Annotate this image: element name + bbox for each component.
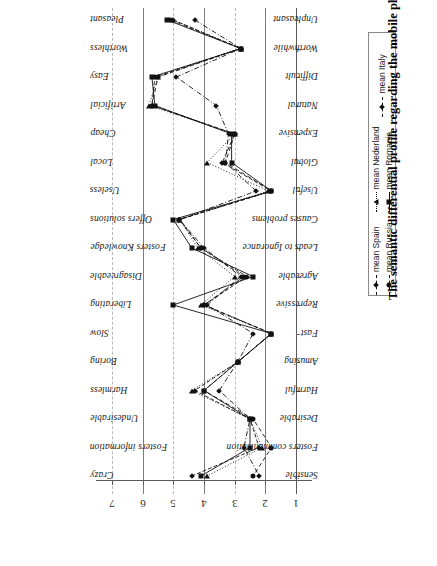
item-label-left-undesirable: Undesirable [90, 413, 138, 423]
legend-item-mean-spain[interactable]: mean Spain [370, 222, 382, 295]
item-label-right-global: Global [291, 157, 318, 167]
value-tick-label-2: 2 [258, 498, 272, 510]
item-label-right-leads-to-ignorance: Leads to Ignorance [242, 242, 318, 252]
value-tick-2 [265, 480, 266, 485]
item-label-right-harmful: Harmful [285, 385, 318, 395]
legend-label: mean Spain [371, 227, 381, 272]
item-label-left-disagreeable: Disagreeable [90, 271, 142, 281]
item-label-right-fast: Fast [301, 328, 318, 338]
item-label-left-boring: Boring [90, 356, 117, 366]
item-label-left-fosters-knowledge: Fosters Knowledge [90, 242, 165, 252]
legend-marker-triangle-icon [371, 192, 381, 212]
item-label-right-causes-problems: Causes problems [252, 214, 318, 224]
value-tick-label-1: 1 [289, 498, 303, 510]
chart-root: 7654321 PleasantWorthlessEasyArtificialC… [0, 0, 437, 566]
item-label-left-local: Local [90, 157, 112, 167]
value-tick-label-6: 6 [136, 498, 150, 510]
value-tick-label-7: 7 [105, 498, 119, 510]
item-label-right-fosters-communication: Fosters communication [226, 442, 318, 452]
item-label-right-amusing: Amusing [284, 356, 318, 366]
item-label-right-sensible: Sensible [286, 470, 318, 480]
item-label-left-offers-solutions: Offers solutions [90, 214, 152, 224]
value-tick-label-5: 5 [166, 498, 180, 510]
item-label-left-useless: Useless [90, 185, 120, 195]
item-label-left-cheap: Cheap [90, 128, 115, 138]
item-label-left-pleasant: Pleasant [90, 14, 124, 24]
item-label-left-slow: Slow [90, 328, 109, 338]
item-label-left-crazy: Crazy [90, 470, 113, 480]
value-tick-3 [235, 480, 236, 485]
item-label-right-difficult: Difficult [285, 71, 318, 81]
value-tick-4 [204, 480, 205, 485]
item-label-right-expensive: Expensive [279, 128, 318, 138]
value-tick-7 [112, 480, 113, 485]
item-label-right-repressive: Repressive [276, 299, 318, 309]
item-labels-left: PleasantWorthlessEasyArtificialCheapLoca… [0, 8, 94, 494]
item-label-left-artificial: Artificial [90, 100, 125, 110]
item-label-left-easy: Easy [90, 71, 109, 81]
item-label-right-unpleasant: Unpleasant [273, 14, 318, 24]
item-label-right-worthwhile: Worthwhile [274, 43, 318, 53]
item-label-right-agreeable: Agreeable [278, 271, 318, 281]
item-label-left-liberating: Liberating [90, 299, 131, 309]
item-label-right-desirable: Desirable [280, 413, 318, 423]
value-tick-label-4: 4 [197, 498, 211, 510]
item-label-right-useful: Useful [293, 185, 318, 195]
value-tick-label-3: 3 [228, 498, 242, 510]
value-axis-ticks: 7654321 [96, 496, 312, 526]
legend-label: mean Nederland [371, 127, 381, 190]
item-label-left-harmless: Harmless [90, 385, 127, 395]
item-label-left-worthless: Worthless [90, 43, 128, 53]
value-tick-5 [173, 480, 174, 485]
item-label-left-fosters-information: Fosters information [90, 442, 168, 452]
value-tick-6 [143, 480, 144, 485]
legend-marker-diamond-icon [371, 275, 381, 295]
legend-item-mean-nederland[interactable]: mean Nederland [370, 127, 382, 213]
item-label-right-natural: Natural [288, 100, 318, 110]
value-tick-1 [296, 480, 297, 485]
category-tick [296, 334, 300, 335]
chart-title: The semantic differential profile regard… [386, 50, 406, 300]
